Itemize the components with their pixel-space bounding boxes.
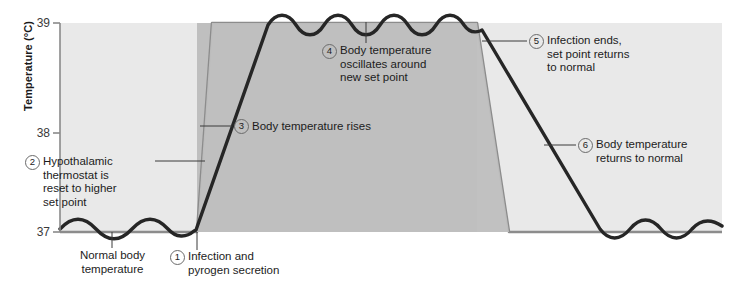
annotation-1-line-2: pyrogen secretion (188, 264, 279, 276)
annotation-1: 1Infection andpyrogen secretion (170, 250, 310, 277)
annotation-3-text: Body temperature rises (252, 120, 371, 132)
annotation-1-line-1: Infection and (188, 250, 254, 262)
annotation-2-line-4: set point (43, 196, 86, 208)
normal-temp-line-2: temperature (81, 263, 143, 275)
annotation-2: 2Hypothalamicthermostat isreset to highe… (25, 155, 155, 209)
annotation-1-number: 1 (170, 250, 185, 265)
y-tick-label-39: 39 (24, 16, 50, 30)
normal-body-temperature-label: Normal body temperature (55, 249, 170, 276)
annotation-1-text: Infection andpyrogen secretion (188, 250, 279, 277)
annotation-6-line-2: returns to normal (596, 152, 683, 164)
annotation-6-number: 6 (578, 138, 593, 153)
annotation-4: 4Body temperatureoscillates aroundnew se… (322, 44, 457, 85)
annotation-5-number: 5 (529, 34, 544, 49)
annotation-4-text: Body temperatureoscillates aroundnew set… (340, 44, 431, 85)
annotation-5-line-2: set point returns (547, 48, 629, 60)
annotation-2-line-3: reset to higher (43, 182, 117, 194)
annotation-4-line-2: oscillates around (340, 58, 426, 70)
annotation-6-text: Body temperaturereturns to normal (596, 138, 687, 165)
annotation-5-line-1: Infection ends, (547, 34, 622, 46)
annotation-2-number: 2 (25, 155, 40, 170)
fever-temperature-diagram: Temperature (°C) 39 38 37 Normal body te… (0, 0, 730, 283)
y-tick-label-38: 38 (24, 126, 50, 140)
annotation-6-line-1: Body temperature (596, 138, 687, 150)
annotation-3: 3Body temperature rises (234, 119, 414, 134)
annotation-2-line-2: thermostat is (43, 169, 109, 181)
annotation-5-line-3: to normal (547, 61, 595, 73)
y-tick-label-37: 37 (24, 225, 50, 239)
normal-temp-line-1: Normal body (80, 249, 145, 261)
annotation-2-text: Hypothalamicthermostat isreset to higher… (43, 155, 117, 209)
annotation-6: 6Body temperaturereturns to normal (578, 138, 723, 165)
annotation-4-number: 4 (322, 44, 337, 59)
annotation-2-line-1: Hypothalamic (43, 155, 113, 167)
annotation-5-text: Infection ends,set point returnsto norma… (547, 34, 629, 75)
annotation-5: 5Infection ends,set point returnsto norm… (529, 34, 674, 75)
annotation-4-line-1: Body temperature (340, 44, 431, 56)
annotation-3-number: 3 (234, 119, 249, 134)
annotation-4-line-3: new set point (340, 71, 408, 83)
